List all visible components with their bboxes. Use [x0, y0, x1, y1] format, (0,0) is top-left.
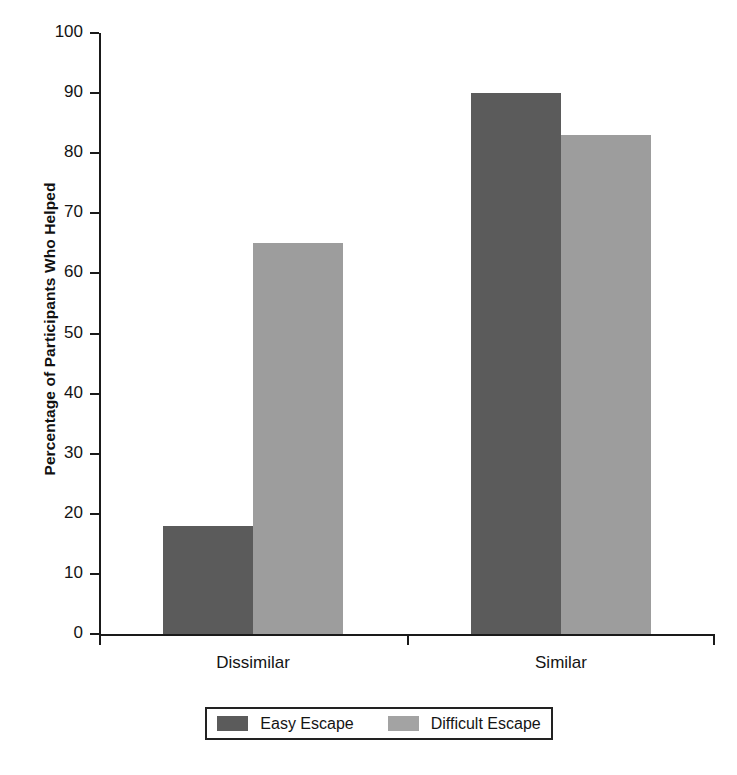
bar-dissimilar-easy-escape	[163, 526, 253, 634]
bar-dissimilar-difficult-escape	[253, 243, 343, 634]
legend-label-difficult-escape: Difficult Escape	[431, 715, 541, 733]
y-tick-label-80: 80	[64, 142, 83, 162]
bar-similar-difficult-escape	[561, 135, 651, 634]
y-tick-60: 60	[90, 272, 99, 274]
bar-chart: Percentage of Participants Who Helped 01…	[0, 0, 737, 775]
y-tick-40: 40	[90, 393, 99, 395]
y-tick-10: 10	[90, 573, 99, 575]
legend-swatch-difficult-escape	[388, 716, 419, 731]
x-category-label-dissimilar: Dissimilar	[143, 653, 363, 673]
legend-swatch-easy-escape	[217, 716, 248, 731]
y-tick-70: 70	[90, 212, 99, 214]
y-tick-100: 100	[90, 32, 99, 34]
y-tick-0: 0	[90, 633, 99, 635]
legend-item-difficult-escape[interactable]: Difficult Escape	[388, 715, 541, 733]
bar-similar-easy-escape	[471, 93, 561, 634]
y-tick-label-60: 60	[64, 262, 83, 282]
y-tick-label-100: 100	[55, 22, 83, 42]
x-tick-0	[99, 634, 101, 645]
y-tick-label-20: 20	[64, 503, 83, 523]
y-tick-label-0: 0	[74, 623, 83, 643]
y-tick-label-90: 90	[64, 82, 83, 102]
x-category-label-similar: Similar	[451, 653, 671, 673]
y-axis-title: Percentage of Participants Who Helped	[41, 109, 59, 549]
y-axis-line	[99, 33, 101, 636]
y-tick-20: 20	[90, 513, 99, 515]
y-tick-label-30: 30	[64, 443, 83, 463]
y-tick-label-50: 50	[64, 323, 83, 343]
y-tick-label-40: 40	[64, 383, 83, 403]
chart-legend: Easy EscapeDifficult Escape	[205, 707, 553, 740]
x-tick-2	[713, 634, 715, 645]
plot-area: 0102030405060708090100 DissimilarSimilar	[99, 33, 715, 636]
y-tick-90: 90	[90, 92, 99, 94]
y-tick-50: 50	[90, 333, 99, 335]
x-tick-1	[407, 634, 409, 645]
legend-label-easy-escape: Easy Escape	[260, 715, 353, 733]
y-tick-30: 30	[90, 453, 99, 455]
legend-item-easy-escape[interactable]: Easy Escape	[217, 715, 353, 733]
y-tick-label-70: 70	[64, 202, 83, 222]
y-tick-80: 80	[90, 152, 99, 154]
y-tick-label-10: 10	[64, 563, 83, 583]
